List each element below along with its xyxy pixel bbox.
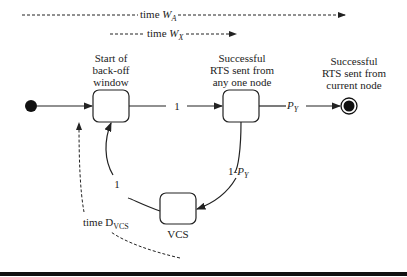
timeline-dvcs-label: time DVCS (83, 216, 143, 233)
state-start-backoff (93, 90, 129, 122)
initial-state-dot (25, 100, 37, 112)
state-vcs (160, 193, 196, 224)
edge-rts-to-vcs-arrow (197, 178, 236, 209)
start-backoff-label: Start of back-off window (80, 52, 142, 88)
timeline-dvcs-upper (79, 123, 84, 212)
timeline-wx-label: time WX (147, 27, 187, 44)
edge-vcs-to-backoff-a (128, 198, 160, 211)
bottom-rule (0, 272, 407, 276)
edge-label-backoff-to-rts: 1 (170, 100, 184, 112)
vcs-label: VCS (160, 228, 196, 240)
edge-label-rts-to-vcs: 1-PY (228, 165, 258, 182)
edge-label-rts-to-current: PY (287, 99, 307, 116)
state-diagram-canvas (0, 0, 407, 277)
state-rts-any-node (223, 90, 259, 122)
timeline-wa-label: time WA (140, 8, 180, 25)
edge-label-vcs-to-backoff: 1 (112, 178, 122, 190)
rts-any-node-label: Successful RTS sent from any one node (206, 52, 278, 88)
final-state-node (341, 98, 357, 114)
edge-vcs-to-backoff-b (106, 123, 113, 175)
rts-current-node-label: Successful RTS sent from current node (318, 55, 390, 91)
